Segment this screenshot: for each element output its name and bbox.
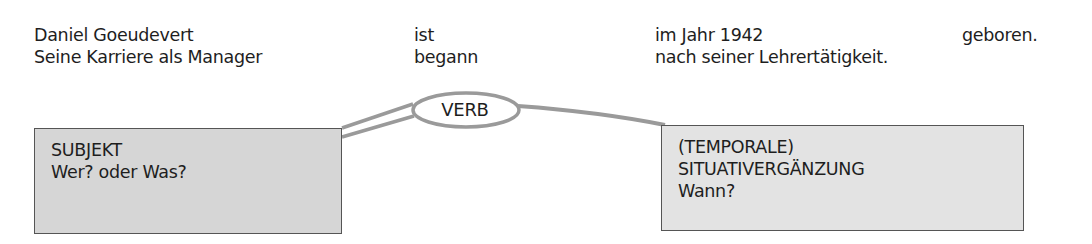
temporal-connector-line bbox=[518, 106, 665, 125]
subject-box-question: Wer? oder Was? bbox=[51, 161, 325, 183]
temporal-box: (TEMPORALE) SITUATIVERGÄNZUNG Wann? bbox=[661, 125, 1024, 231]
subject-box: SUBJEKT Wer? oder Was? bbox=[34, 128, 342, 234]
verb-label: VERB bbox=[414, 98, 516, 122]
subject-box-title: SUBJEKT bbox=[51, 139, 325, 161]
subject-connector-line-2 bbox=[342, 116, 414, 137]
temporal-box-question: Wann? bbox=[678, 180, 1007, 202]
subject-connector-line-1 bbox=[342, 104, 413, 128]
temporal-box-title-line-1: (TEMPORALE) bbox=[678, 136, 1007, 158]
temporal-box-title-line-2: SITUATIVERGÄNZUNG bbox=[678, 158, 1007, 180]
